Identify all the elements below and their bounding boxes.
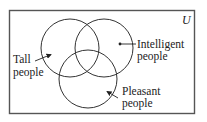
universe-label: U <box>182 13 192 27</box>
arrow-tall-icon <box>35 55 51 62</box>
label-tall-line2: people <box>13 66 44 79</box>
dot-intelligent-icon <box>119 43 122 46</box>
label-tall-line1: Tall <box>13 53 31 65</box>
label-tall: Tall people <box>13 53 51 79</box>
label-pleasant-line1: Pleasant <box>122 85 161 97</box>
venn-diagram: U Tall people Intelligent people Pleasan… <box>0 0 207 122</box>
label-pleasant-line2: people <box>122 97 153 110</box>
arrow-pleasant-icon <box>107 92 118 99</box>
label-intelligent: Intelligent people <box>119 38 185 63</box>
set-circle-intelligent <box>75 19 133 77</box>
universe-frame <box>10 11 195 114</box>
set-circle-pleasant <box>59 50 117 108</box>
label-intelligent-line2: people <box>137 50 168 63</box>
set-circle-tall <box>41 19 99 77</box>
